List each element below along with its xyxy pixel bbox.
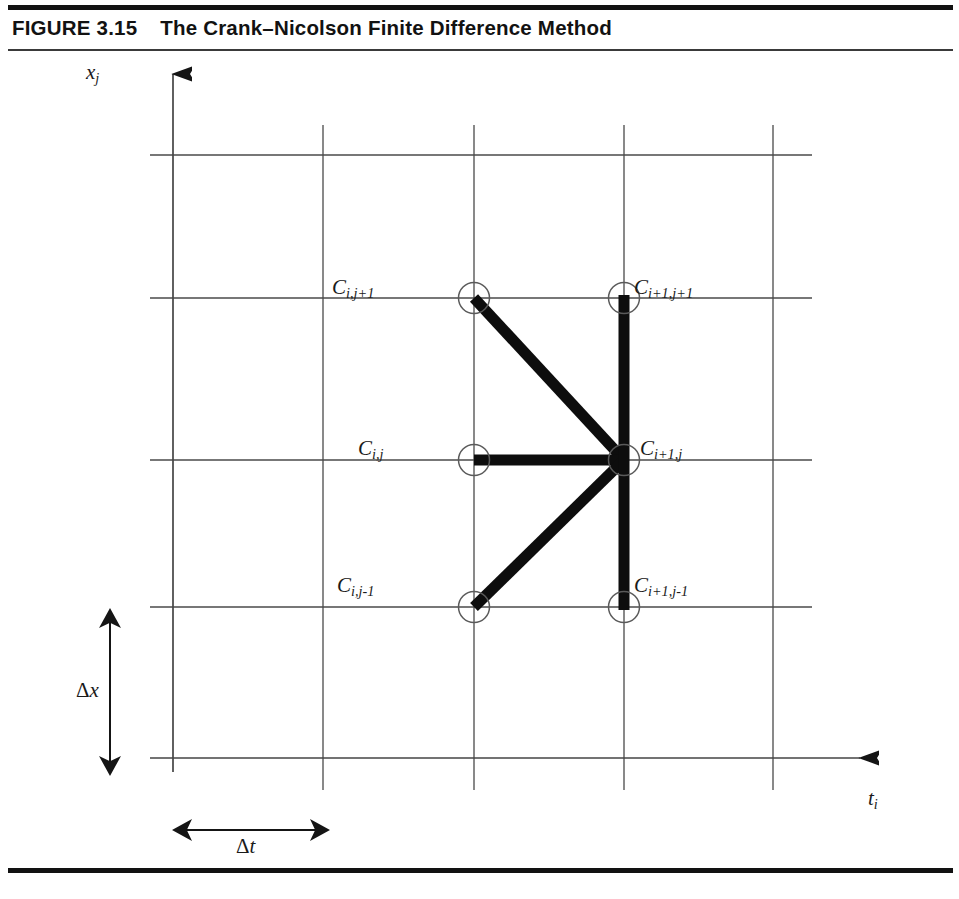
delta-x-label: Δx [76, 680, 99, 701]
stencil-edge-lower-diagonal [474, 460, 624, 607]
x-axis-label: ti [868, 788, 878, 811]
node-label-c-i-j: Ci,j [358, 438, 384, 461]
plot-area: xj ti Δx Δt Ci,j+1 Ci+1,j+1 Ci,j Ci+1,j … [0, 52, 959, 862]
stencil-edge-upper-diagonal [474, 298, 624, 460]
node-label-c-iplus1-j: Ci+1,j [640, 438, 682, 461]
diagram-svg [0, 52, 959, 862]
bottom-rule [8, 868, 953, 873]
node-label-c-iplus1-jminus1: Ci+1,j-1 [634, 575, 688, 598]
figure-container: FIGURE 3.15The Crank–Nicolson Finite Dif… [0, 0, 959, 899]
crank-nicolson-stencil [474, 295, 628, 610]
y-axis-label: xj [86, 62, 99, 85]
figure-number: FIGURE 3.15 [12, 16, 137, 39]
caption-underline-rule [8, 49, 953, 51]
node-label-c-i-jminus1: Ci,j-1 [337, 575, 374, 598]
node-label-c-iplus1-jplus1: Ci+1,j+1 [634, 277, 693, 300]
top-rule [8, 5, 953, 10]
axes [150, 74, 860, 772]
delta-t-label: Δt [236, 836, 255, 857]
figure-title-text: The Crank–Nicolson Finite Difference Met… [160, 16, 612, 39]
figure-caption: FIGURE 3.15The Crank–Nicolson Finite Dif… [12, 16, 612, 40]
node-label-c-i-jplus1: Ci,j+1 [332, 277, 374, 300]
